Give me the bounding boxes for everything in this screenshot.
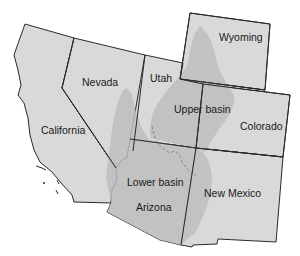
label-new-mexico: New Mexico	[204, 187, 261, 199]
label-lower-basin: Lower basin	[127, 176, 184, 188]
label-arizona: Arizona	[136, 201, 172, 213]
label-utah: Utah	[150, 72, 172, 84]
label-wyoming: Wyoming	[219, 31, 263, 43]
label-colorado: Colorado	[240, 120, 283, 132]
label-upper-basin: Upper basin	[174, 103, 231, 115]
basin-map: Nevada Utah Wyoming Upper basin Colorado…	[0, 0, 300, 256]
label-nevada: Nevada	[82, 76, 118, 88]
label-california: California	[41, 124, 86, 136]
